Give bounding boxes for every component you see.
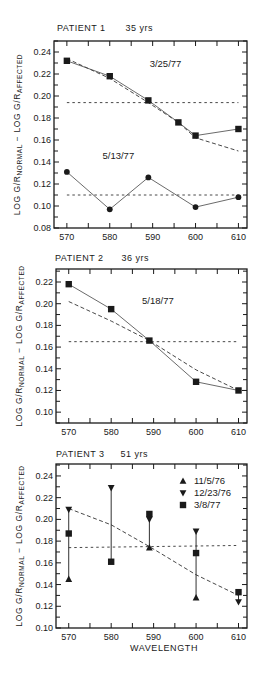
panel-1-title-name: PATIENT 1 [57,23,106,33]
panel-2-title: PATIENT 2 36 yrs [55,253,149,263]
figure: 5705805906006100.080.100.120.140.160.180… [0,0,262,676]
y-axis-label: LOG G/RNORMAL − LOG G/RAFFECTED [12,54,23,215]
square-marker-icon [180,502,186,508]
y-tick-label: 0.14 [35,580,53,590]
series-line [67,172,239,209]
y-tick-label: 0.16 [35,558,53,568]
square-marker-icon [64,58,70,64]
x-tick-label: 590 [146,632,161,642]
x-tick-label: 590 [146,427,161,437]
y-tick-label: 0.12 [35,601,53,611]
x-tick-label: 570 [59,232,74,242]
panel-3-title-age: 51 yrs [121,449,149,459]
x-tick-label: 600 [189,427,204,437]
panel-3: 5705805906006100.100.120.140.160.180.200… [14,464,247,642]
y-tick-label: 0.18 [33,113,51,123]
panel-2-title-age: 36 yrs [122,253,150,263]
square-marker-icon [193,379,199,385]
panel-3-title: PATIENT 3 51 yrs [56,449,148,459]
y-tick-label: 0.22 [35,277,53,287]
series-line [67,61,239,136]
x-tick-label: 610 [231,427,246,437]
date-annotation: 5/18/77 [142,295,174,306]
square-marker-icon [107,73,113,79]
panel-2: 5705805906006100.100.120.140.160.180.200… [14,265,247,437]
x-tick-label: 600 [189,632,204,642]
square-marker-icon [108,559,114,565]
y-tick-label: 0.12 [35,385,53,395]
triangle-up-marker-icon [65,576,72,582]
circle-marker-icon [236,194,242,200]
y-tick-label: 0.22 [33,69,51,79]
square-marker-icon [235,589,241,595]
y-tick-label: 0.16 [33,135,51,145]
y-tick-label: 0.14 [35,364,53,374]
x-tick-label: 580 [104,427,119,437]
circle-marker-icon [64,169,70,175]
square-marker-icon [145,97,151,103]
triangle-up-marker-icon [180,477,187,483]
panel-1-title-age: 35 yrs [126,23,154,33]
square-marker-icon [146,337,152,343]
triangle-down-marker-icon [65,507,72,513]
square-marker-icon [175,119,181,125]
legend-label: 12/23/76 [194,487,231,498]
mean-dotted-line [69,545,239,547]
square-marker-icon [108,306,114,312]
y-tick-label: 0.14 [33,157,51,167]
date-annotation: 5/13/77 [102,150,134,161]
triangle-down-marker-icon [235,599,242,605]
triangle-down-marker-icon [108,485,115,491]
x-tick-label: 580 [104,632,119,642]
y-axis-label: LOG G/RNORMAL − LOG G/RAFFECTED [14,265,25,426]
regression-dashed-line [69,302,239,391]
square-marker-icon [192,132,198,138]
y-tick-label: 0.18 [35,536,53,546]
plot-frame [56,269,247,423]
y-tick-label: 0.20 [35,514,53,524]
circle-marker-icon [145,175,151,181]
square-marker-icon [235,387,241,393]
square-marker-icon [66,530,72,536]
panel-1: 5705805906006100.080.100.120.140.160.180… [12,41,247,242]
date-annotation: 3/25/77 [150,58,182,69]
panel-3-title-name: PATIENT 3 [56,449,105,459]
x-tick-label: 610 [231,632,246,642]
y-tick-label: 0.24 [35,471,53,481]
triangle-down-marker-icon [180,490,187,496]
x-tick-label: 570 [61,427,76,437]
square-marker-icon [66,281,72,287]
y-axis-label: LOG G/RNORMAL − LOG G/RAFFECTED [14,465,25,626]
x-tick-label: 600 [188,232,203,242]
triangle-down-marker-icon [193,529,200,535]
square-marker-icon [193,550,199,556]
y-tick-label: 0.20 [33,91,51,101]
panel-2-title-name: PATIENT 2 [55,253,104,263]
y-tick-label: 0.10 [35,623,53,633]
regression-dashed-line [69,509,239,596]
y-tick-label: 0.18 [35,320,53,330]
x-tick-label: 610 [231,232,246,242]
panel-1-title: PATIENT 1 35 yrs [57,23,153,33]
triangle-up-marker-icon [193,594,200,600]
circle-marker-icon [193,204,199,210]
y-tick-label: 0.12 [33,179,51,189]
y-tick-label: 0.24 [33,47,51,57]
y-tick-label: 0.10 [35,407,53,417]
square-marker-icon [235,126,241,132]
y-tick-label: 0.08 [33,223,51,233]
y-tick-label: 0.16 [35,342,53,352]
x-tick-label: 580 [102,232,117,242]
legend-label: 11/5/76 [194,475,225,486]
y-tick-label: 0.22 [35,493,53,503]
x-axis-label: WAVELENGTH [130,643,198,653]
x-tick-label: 590 [145,232,160,242]
legend-label: 3/8/77 [194,499,220,510]
regression-dashed-line [67,59,239,151]
x-tick-label: 570 [61,632,76,642]
circle-marker-icon [107,206,113,212]
triangle-down-marker-icon [146,517,153,523]
y-tick-label: 0.20 [35,299,53,309]
square-marker-icon [146,511,152,517]
y-tick-label: 0.10 [33,201,51,211]
